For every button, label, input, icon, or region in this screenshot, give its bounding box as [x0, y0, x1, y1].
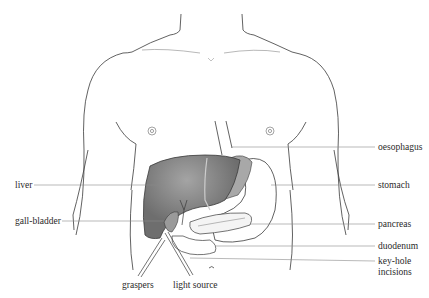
keyhole-incision-mark	[209, 267, 214, 269]
nipple-left	[148, 127, 156, 135]
label-duodenum: duodenum	[378, 241, 418, 251]
label-oesophagus: oesophagus	[378, 142, 422, 152]
torso-illustration	[0, 0, 429, 298]
label-graspers: graspers	[122, 280, 154, 290]
duodenum-shape	[172, 236, 216, 255]
label-liver: liver	[15, 180, 32, 190]
label-keyhole-line2: incisions	[378, 267, 412, 277]
label-stomach: stomach	[378, 180, 410, 190]
label-pancreas: pancreas	[378, 219, 411, 229]
label-keyhole-line1: key-hole	[378, 256, 411, 266]
label-gall-bladder: gall-bladder	[15, 216, 61, 226]
label-light-source: light source	[173, 280, 218, 290]
anatomy-diagram: liver gall-bladder oesophagus stomach pa…	[0, 0, 429, 298]
graspers-instrument	[138, 238, 165, 277]
nipple-right	[266, 127, 274, 135]
